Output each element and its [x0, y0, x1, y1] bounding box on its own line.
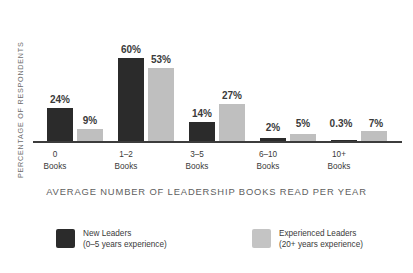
tick-line-2: Books: [157, 161, 237, 173]
x-tick-label-1-2-books: 1–2 Books: [86, 149, 166, 172]
legend-swatch-icon-new-leaders: [56, 229, 75, 248]
tick-line-1: 0: [15, 149, 95, 161]
tick-line-1: 1–2: [86, 149, 166, 161]
x-tick-label-6-10-books: 6–10 Books: [228, 149, 308, 172]
bars: [114, 18, 178, 141]
tick-line-2: Books: [228, 161, 308, 173]
value-label-experienced-leaders-6-10-books: 5%: [283, 118, 323, 130]
tick-line-1: 3–5: [157, 149, 237, 161]
bar-experienced-leaders-10-plus-books[interactable]: [361, 131, 387, 141]
tick-line-2: Books: [86, 161, 166, 173]
x-tick-label-10-plus-books: 10+ Books: [299, 149, 379, 172]
value-label-new-leaders-3-5-books: 14%: [182, 108, 222, 120]
legend-name: New Leaders: [83, 229, 131, 238]
bar-group-3-5-books: 14% 27%: [185, 18, 249, 141]
legend-swatch-icon-experienced-leaders: [252, 229, 271, 248]
bar-new-leaders-3-5-books[interactable]: [189, 122, 215, 141]
x-tick-label-0-books: 0 Books: [15, 149, 95, 172]
bar-new-leaders-1-2-books[interactable]: [118, 58, 144, 141]
value-label-new-leaders-10-plus-books: 0.3%: [321, 118, 361, 130]
legend: New Leaders (0–5 years experience) Exper…: [0, 228, 413, 262]
x-tick-label-3-5-books: 3–5 Books: [157, 149, 237, 172]
value-label-new-leaders-0-books: 24%: [40, 94, 80, 106]
value-label-experienced-leaders-10-plus-books: 7%: [356, 118, 396, 130]
bar-group-1-2-books: 60% 53%: [114, 18, 178, 141]
bar-experienced-leaders-0-books[interactable]: [77, 129, 103, 142]
bar-experienced-leaders-1-2-books[interactable]: [148, 68, 174, 141]
x-axis-title: AVERAGE NUMBER OF LEADERSHIP BOOKS READ …: [0, 186, 413, 197]
bar-group-0-books: 24% 9%: [43, 18, 107, 141]
legend-label-new-leaders: New Leaders (0–5 years experience): [83, 228, 167, 250]
bar-group-6-10-books: 2% 5%: [256, 18, 320, 141]
legend-name: Experienced Leaders: [279, 229, 356, 238]
bar-experienced-leaders-6-10-books[interactable]: [290, 134, 316, 141]
legend-label-experienced-leaders: Experienced Leaders (20+ years experienc…: [279, 228, 363, 250]
tick-line-1: 6–10: [228, 149, 308, 161]
legend-sublabel: (0–5 years experience): [83, 239, 167, 250]
value-label-experienced-leaders-3-5-books: 27%: [212, 90, 252, 102]
tick-line-2: Books: [299, 161, 379, 173]
x-axis-line: [33, 141, 402, 143]
value-label-experienced-leaders-1-2-books: 53%: [141, 54, 181, 66]
bar-chart: PERCENTAGE OF RESPONDENTS 24% 9% 60% 53%: [0, 0, 413, 273]
plot-area: 24% 9% 60% 53% 14% 27%: [35, 18, 398, 141]
tick-line-1: 10+: [299, 149, 379, 161]
value-label-experienced-leaders-0-books: 9%: [70, 115, 110, 127]
tick-line-2: Books: [15, 161, 95, 173]
bar-experienced-leaders-3-5-books[interactable]: [219, 104, 245, 141]
legend-item-experienced-leaders[interactable]: Experienced Leaders (20+ years experienc…: [252, 228, 363, 250]
bars: [185, 18, 249, 141]
legend-item-new-leaders[interactable]: New Leaders (0–5 years experience): [56, 228, 167, 250]
bar-group-10-plus-books: 0.3% 7%: [327, 18, 391, 141]
legend-sublabel: (20+ years experience): [279, 239, 363, 250]
